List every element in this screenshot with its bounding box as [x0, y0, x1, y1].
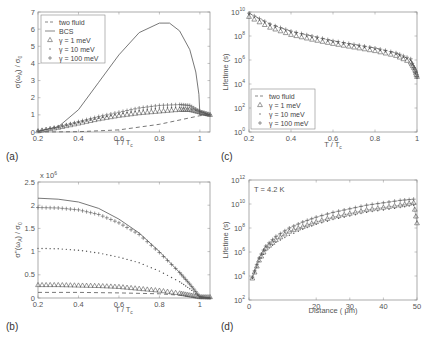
plus-marker — [359, 204, 363, 208]
plus-marker — [373, 46, 377, 50]
plus-marker — [352, 42, 356, 46]
plus-marker — [331, 39, 335, 43]
dot-marker — [171, 107, 172, 108]
plus-marker — [166, 103, 170, 107]
dot-marker — [394, 208, 395, 209]
plus-marker — [89, 211, 93, 215]
dot-marker — [151, 108, 152, 109]
plus-marker — [141, 236, 145, 240]
plus-marker — [258, 17, 262, 21]
plus-marker — [336, 40, 340, 44]
dot-marker — [187, 287, 188, 288]
legend: two fluidγ = 1 meVγ = 10 meVγ = 100 meV — [251, 89, 315, 129]
dot-marker — [41, 248, 42, 249]
plus-marker — [109, 217, 113, 221]
y-tick-label: 106 — [234, 246, 245, 257]
plus-marker — [384, 48, 388, 52]
panel-c-lifetime-temperature-plot: 0.20.40.60.811001021041061081010two flui… — [221, 6, 419, 162]
plus-marker — [81, 209, 85, 213]
plus-marker — [273, 24, 277, 28]
plus-marker — [326, 38, 330, 42]
plus-marker — [301, 220, 305, 224]
plus-marker — [252, 14, 256, 18]
plus-marker — [170, 103, 174, 107]
x-axis-label: T / Tc — [324, 140, 342, 150]
dot-marker — [258, 261, 259, 262]
dot-marker — [45, 248, 46, 249]
dot-marker — [147, 109, 148, 110]
x-tick-label: 1 — [415, 134, 419, 143]
dot-marker — [122, 258, 123, 259]
plus-marker — [278, 232, 282, 236]
dot-marker — [388, 209, 389, 210]
dot-marker — [289, 235, 290, 236]
dot-marker — [143, 109, 144, 110]
plus-marker — [403, 198, 407, 202]
dot-marker — [49, 248, 50, 249]
plus-marker — [149, 104, 153, 108]
plus-marker — [48, 206, 52, 210]
y-axis-label: σ(ωA) / σ0 — [13, 56, 23, 89]
series-two-fluid — [38, 115, 210, 132]
legend-entry: two fluid — [59, 19, 85, 26]
y-tick-label: 1.5 — [25, 224, 35, 233]
x-tick-label: 40 — [379, 302, 387, 311]
plus-marker — [56, 206, 60, 210]
plus-marker — [137, 232, 141, 236]
plus-marker — [153, 104, 157, 108]
dot-marker — [106, 254, 107, 255]
plus-marker — [368, 45, 372, 49]
plus-marker — [292, 224, 296, 228]
x-tick-label: 0.4 — [286, 134, 296, 143]
dot-marker — [70, 249, 71, 250]
triangle-marker — [381, 205, 386, 209]
plus-marker — [337, 209, 341, 213]
y-tick-label: 6 — [31, 25, 35, 34]
y-tick-label: 106 — [234, 54, 245, 65]
panel-label-c: (c) — [221, 151, 233, 162]
y-axis-label: Lifetime (s) — [221, 53, 230, 91]
dot-marker — [98, 252, 99, 253]
y-axis-label: Lifetime (s) — [221, 221, 230, 259]
plus-marker — [121, 223, 125, 227]
plus-marker — [93, 212, 97, 216]
y-tick-label: 2.5 — [25, 178, 35, 187]
dot-marker — [159, 107, 160, 108]
plus-marker — [387, 200, 391, 204]
plus-marker — [137, 106, 141, 110]
plus-marker — [97, 115, 101, 119]
dot-marker — [86, 251, 87, 252]
panel-a-sigma1-plot: 0.20.40.60.8101234567two fluidBCSγ = 1 m… — [6, 8, 212, 163]
dot-marker — [261, 257, 262, 258]
dot-marker — [344, 217, 345, 218]
dot-marker — [298, 231, 299, 232]
dot-marker — [78, 250, 79, 251]
plus-marker — [257, 256, 261, 260]
plus-marker — [145, 240, 149, 244]
dot-marker — [191, 290, 192, 291]
plus-marker — [310, 217, 314, 221]
plus-marker — [93, 116, 97, 120]
plus-marker — [129, 108, 133, 112]
plus-marker — [153, 247, 157, 251]
triangle-marker — [375, 206, 380, 210]
triangle-marker — [392, 203, 397, 207]
y-tick-label: 1 — [31, 110, 35, 119]
dot-marker — [147, 265, 148, 266]
dot-marker — [338, 218, 339, 219]
y-tick-label: 3 — [31, 76, 35, 85]
legend-entry: γ = 1 meV — [269, 102, 301, 110]
dot-marker — [53, 248, 54, 249]
plus-marker — [315, 35, 319, 39]
plus-marker — [125, 109, 129, 113]
dot-marker — [366, 212, 367, 213]
dot-marker — [293, 233, 294, 234]
plus-marker — [314, 215, 318, 219]
plus-marker — [407, 198, 411, 202]
plus-marker — [113, 111, 117, 115]
legend: two fluidBCSγ = 1 meVγ = 10 meVγ = 100 m… — [41, 15, 105, 63]
y-tick-label: 108 — [234, 30, 245, 41]
plus-marker — [393, 199, 397, 203]
dot-marker — [187, 108, 188, 109]
dot-marker — [179, 106, 180, 107]
